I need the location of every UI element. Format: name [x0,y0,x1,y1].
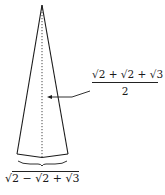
inner-radicand: 2 + √3 [128,68,164,80]
inner-radicand-text: 2 + [128,68,150,80]
height-label-numerator: √2 + √2 + √3 [92,69,158,83]
outer-radicand-text: 2 − [12,172,35,185]
arrowhead-icon [47,95,52,99]
sqrt-symbol: √ [121,68,128,80]
right-side [42,5,68,154]
left-side [17,5,42,154]
height-leader-line [50,91,90,97]
sqrt-symbol: √ [92,68,99,80]
base [17,154,68,158]
outer-radicand-text: 2 + [99,68,121,80]
height-label: √2 + √2 + √3 2 [92,69,158,96]
triangle-diagram [0,0,165,195]
height-label-denominator: 2 [92,83,158,97]
innermost-radicand: 3 [72,171,79,185]
innermost-radicand: 3 [156,68,163,80]
base-brace [18,161,67,166]
inner-radicand: 2 + √3 [42,171,79,185]
outer-radicand: 2 + √2 + √3 [99,68,163,80]
outer-radicand: 2 − √2 + √3 [12,171,79,185]
sqrt-symbol: √ [5,172,12,185]
base-label: √2 − √2 + √3 [5,173,79,184]
inner-radicand-text: 2 + [42,172,65,185]
